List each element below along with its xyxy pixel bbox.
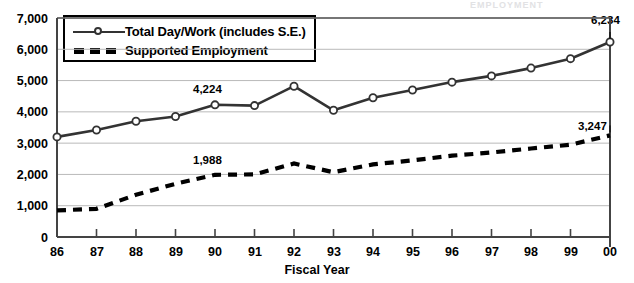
data-point-95: [409, 86, 416, 93]
data-point-98: [527, 64, 534, 71]
data-point-97: [488, 72, 495, 79]
data-point-00: [606, 38, 613, 45]
data-point-87: [93, 126, 100, 133]
plot-area: [0, 0, 634, 283]
line-chart: EMPLOYMENT 7,000 6,000 5,000 4,000 3,000…: [0, 0, 634, 283]
series-line-supported-employment: [57, 135, 610, 210]
data-point-86: [53, 133, 60, 140]
data-point-94: [369, 94, 376, 101]
data-point-93: [330, 107, 337, 114]
data-point-96: [448, 79, 455, 86]
data-point-89: [172, 113, 179, 120]
data-point-90: [211, 101, 218, 108]
data-point-99: [567, 55, 574, 62]
data-point-91: [251, 102, 258, 109]
data-point-92: [290, 83, 297, 90]
data-point-88: [132, 118, 139, 125]
